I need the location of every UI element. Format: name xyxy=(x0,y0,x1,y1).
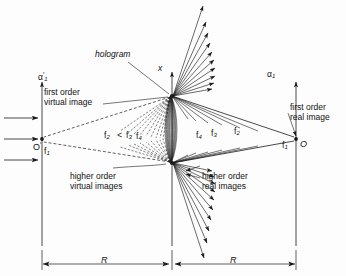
first-order-real-rays xyxy=(172,96,294,163)
hologram-label: hologram xyxy=(95,50,130,60)
f-sub: 3 xyxy=(213,132,216,138)
leader-line-hologram xyxy=(128,62,169,94)
higher-order-virtual-label: higher order virtual images xyxy=(70,172,122,191)
alpha-right-label: α1 xyxy=(267,70,275,82)
origin-left-prime: ′ xyxy=(40,141,41,148)
alpha-left-label: α′1 xyxy=(38,70,48,85)
origin-left-symbol: O xyxy=(33,142,40,152)
focal-right-f4: f4 xyxy=(196,131,202,143)
focal-left-f1: f1 xyxy=(44,147,50,159)
f-sub: 4 xyxy=(198,134,201,140)
dimension-lines xyxy=(42,250,296,270)
focal-left-separator: < xyxy=(117,131,122,141)
leader-line-higher-order-virtual xyxy=(113,164,166,168)
dimension-label-R-right: R xyxy=(230,256,237,266)
higher-order-real-label: higher order real images xyxy=(202,172,248,191)
figure-canvas: hologram x α′1 α1 first order virtual im… xyxy=(0,0,346,276)
f-sub: 2 xyxy=(106,134,109,140)
focal-right-f2: f2 xyxy=(234,127,240,139)
f-sub: 3 xyxy=(128,134,131,140)
focal-left-f2: f2 xyxy=(104,131,110,143)
origin-right-label: O xyxy=(300,140,307,150)
f-sub: 2 xyxy=(236,130,239,136)
focal-left-f3: f3 xyxy=(126,131,132,143)
dimension-label-R-left: R xyxy=(101,256,108,266)
first-order-virtual-label: first order virtual image xyxy=(44,88,92,107)
incoming-plane-wave-arrows xyxy=(4,118,38,160)
alpha-left-sub: 1 xyxy=(44,76,47,82)
focal-right-f1: f1 xyxy=(282,141,288,153)
first-order-real-label: first order real image xyxy=(290,103,330,122)
f-sub: 1 xyxy=(284,144,287,150)
origin-left-label: O′ xyxy=(33,140,41,153)
f-sub: 4 xyxy=(138,135,141,141)
f-sub: 1 xyxy=(46,150,49,156)
ray-diagram-svg xyxy=(0,0,346,276)
alpha-right-sub: 1 xyxy=(272,73,275,79)
higher-order-real-fan-upper xyxy=(173,6,215,96)
focal-right-f3: f3 xyxy=(211,129,217,141)
focal-left-f4: f4 xyxy=(136,132,142,144)
x-axis-label: x xyxy=(158,64,162,74)
